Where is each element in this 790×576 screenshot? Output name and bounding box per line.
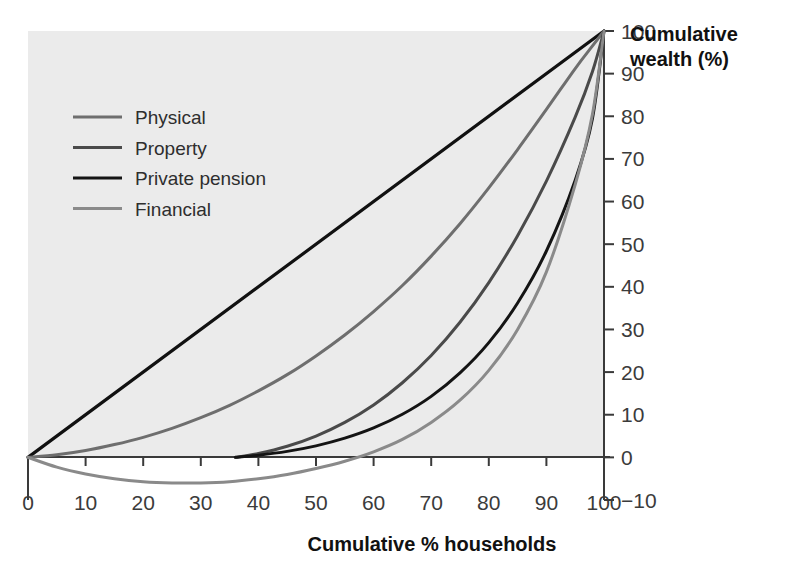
x-tick-label: 60: [362, 491, 385, 514]
y-tick-label: 0: [621, 446, 633, 469]
x-tick-label: 40: [247, 491, 270, 514]
y-tick-label: 50: [621, 233, 644, 256]
y-tick-label: 10: [621, 403, 644, 426]
y-axis-ticks: −100102030405060708090100: [604, 20, 657, 512]
legend-label: Financial: [135, 199, 211, 220]
x-tick-label: 100: [586, 491, 621, 514]
y-axis-title-line2: wealth (%): [629, 48, 729, 70]
y-axis-title-line1: Cumulative: [630, 23, 738, 45]
x-tick-label: 80: [477, 491, 500, 514]
x-tick-label: 20: [132, 491, 155, 514]
x-tick-label: 90: [535, 491, 558, 514]
legend-label: Property: [135, 138, 207, 159]
y-tick-label: 40: [621, 275, 644, 298]
chart-canvas: 0102030405060708090100 −1001020304050607…: [0, 0, 790, 576]
x-axis-ticks: 0102030405060708090100: [22, 457, 621, 514]
x-tick-label: 30: [189, 491, 212, 514]
legend-label: Private pension: [135, 168, 266, 189]
legend-label: Physical: [135, 107, 206, 128]
y-tick-label: 70: [621, 147, 644, 170]
y-tick-label: 60: [621, 190, 644, 213]
lorenz-curve-chart: 0102030405060708090100 −1001020304050607…: [0, 0, 790, 576]
y-tick-label: 30: [621, 318, 644, 341]
x-tick-label: 10: [74, 491, 97, 514]
x-tick-label: 70: [420, 491, 443, 514]
y-tick-label: −10: [621, 489, 657, 512]
x-axis-title: Cumulative % households: [308, 533, 557, 555]
x-tick-label: 50: [304, 491, 327, 514]
y-tick-label: 20: [621, 361, 644, 384]
x-tick-label: 0: [22, 491, 34, 514]
y-tick-label: 80: [621, 105, 644, 128]
